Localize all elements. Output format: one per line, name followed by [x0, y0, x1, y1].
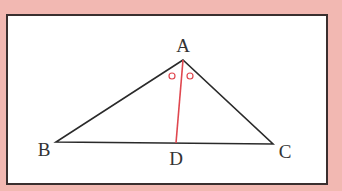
label-a: A: [176, 35, 190, 56]
label-c: C: [279, 141, 292, 162]
label-b: B: [38, 139, 51, 160]
label-d: D: [169, 148, 183, 169]
triangle-diagram: A B C D: [0, 0, 342, 191]
